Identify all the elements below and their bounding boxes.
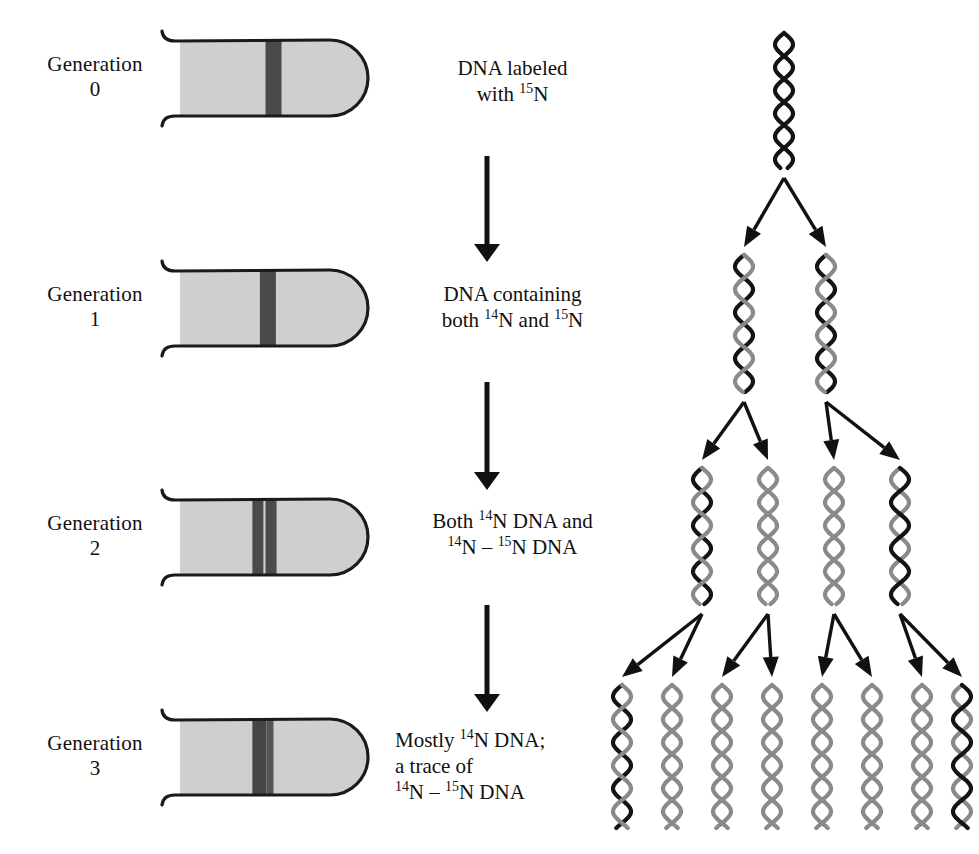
dna-strand-front bbox=[693, 468, 711, 604]
helix-hybrid bbox=[953, 685, 971, 828]
branch-arrow bbox=[744, 402, 768, 460]
arrow-head bbox=[753, 438, 768, 460]
helix-light bbox=[863, 685, 881, 828]
arrow-shaft bbox=[744, 402, 760, 442]
helix-light bbox=[825, 468, 843, 604]
helix-hybrid bbox=[613, 685, 631, 828]
branch-arrows-gen1-to-gen2 bbox=[702, 402, 900, 460]
arrow-shaft bbox=[638, 614, 702, 665]
branch-arrow bbox=[722, 614, 768, 677]
dna-strand-front bbox=[891, 468, 909, 604]
helix-light bbox=[759, 468, 777, 604]
helix-hybrid bbox=[693, 468, 711, 604]
arrow-shaft bbox=[768, 614, 771, 657]
dna-strand-front bbox=[825, 468, 843, 604]
helix-light bbox=[713, 685, 731, 828]
arrow-shaft bbox=[826, 614, 834, 657]
arrow-head bbox=[763, 657, 779, 677]
arrow-head bbox=[722, 656, 740, 677]
arrow-head bbox=[702, 439, 720, 460]
branch-arrow bbox=[763, 614, 779, 677]
branch-arrow bbox=[818, 614, 834, 677]
dna-strand-front bbox=[759, 468, 777, 604]
arrow-shaft bbox=[784, 178, 816, 230]
arrow-head bbox=[672, 656, 688, 677]
helix-light bbox=[663, 685, 681, 828]
arrow-head bbox=[744, 226, 761, 247]
arrow-head bbox=[908, 655, 923, 677]
arrow-head bbox=[818, 656, 834, 677]
branch-arrow bbox=[744, 178, 784, 247]
arrow-head bbox=[823, 439, 839, 460]
helix-hybrid bbox=[817, 255, 835, 392]
helix-hybrid bbox=[891, 468, 909, 604]
helix-row-gen1 bbox=[735, 255, 835, 392]
arrow-shaft bbox=[826, 402, 831, 440]
branch-arrow bbox=[784, 178, 826, 247]
arrow-shaft bbox=[734, 614, 768, 661]
helix-row-gen0 bbox=[775, 33, 793, 168]
branch-arrows-gen0-to-gen1 bbox=[744, 178, 826, 247]
helix-row-gen2 bbox=[693, 468, 909, 604]
helix-light bbox=[913, 685, 931, 828]
helix-hybrid bbox=[735, 255, 753, 392]
branch-arrow bbox=[702, 402, 744, 460]
dna-strand-front bbox=[817, 255, 835, 392]
arrow-shaft bbox=[754, 178, 784, 230]
branch-arrow bbox=[622, 614, 702, 677]
branch-arrow bbox=[834, 614, 872, 677]
branch-arrows-gen2-to-gen3 bbox=[622, 614, 962, 677]
helix-light bbox=[813, 685, 831, 828]
replication-tree-layer bbox=[0, 0, 979, 854]
helix-row-gen3 bbox=[613, 685, 971, 828]
helix-heavy-heavy bbox=[775, 33, 793, 168]
arrow-head bbox=[809, 226, 826, 247]
arrow-head bbox=[855, 656, 872, 677]
branch-arrow bbox=[826, 402, 900, 460]
helix-light bbox=[763, 685, 781, 828]
arrow-shaft bbox=[834, 614, 862, 660]
arrow-shaft bbox=[714, 402, 744, 444]
dna-strand-front bbox=[735, 255, 753, 392]
branch-arrow bbox=[672, 614, 702, 677]
